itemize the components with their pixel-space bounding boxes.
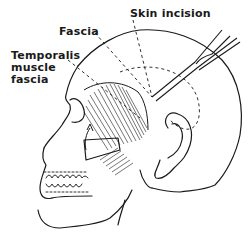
label-skin-incision: Skin incision bbox=[130, 8, 211, 20]
zygomatic-arch bbox=[84, 138, 120, 160]
teeth bbox=[44, 172, 88, 192]
masseter-hatching bbox=[100, 148, 133, 175]
skin-incision-leader bbox=[133, 20, 152, 97]
ear bbox=[155, 113, 192, 178]
label-fascia: Fascia bbox=[59, 26, 99, 38]
label-temporalis-line3: fascia bbox=[11, 74, 71, 86]
orbit bbox=[70, 99, 84, 123]
fascia-leader bbox=[95, 33, 152, 97]
head-outline bbox=[78, 30, 241, 192]
skull-illustration bbox=[0, 0, 250, 236]
label-temporalis-muscle-fascia: Temporalis muscle fascia bbox=[11, 50, 71, 86]
surgical-diagram: Fascia Skin incision Temporalis muscle f… bbox=[0, 0, 250, 236]
arrow-curve bbox=[85, 128, 90, 150]
